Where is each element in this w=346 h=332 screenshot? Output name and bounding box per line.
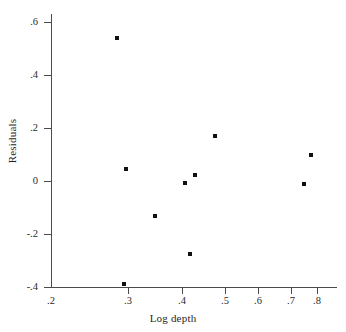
x-axis-title: Log depth (0, 312, 346, 324)
x-tick-label: .5 (213, 295, 237, 306)
x-tick-label: .7 (279, 295, 303, 306)
y-tick-mark (44, 234, 51, 235)
y-tick-mark (44, 181, 51, 182)
data-point (309, 153, 313, 157)
y-tick-mark (44, 22, 51, 23)
data-point (213, 134, 217, 138)
data-point (183, 181, 187, 185)
x-tick-mark (258, 288, 259, 294)
data-point (193, 173, 197, 177)
y-tick-mark (44, 128, 51, 129)
x-tick-label: .8 (305, 295, 329, 306)
x-tick-label: .6 (246, 295, 270, 306)
scatter-plot-figure: .6.4.20-.2-.4 .2.3.4.5.6.7.8 Residuals L… (0, 0, 346, 332)
data-point (188, 252, 192, 256)
data-point (115, 36, 119, 40)
y-tick-mark (44, 75, 51, 76)
y-tick-mark (44, 287, 51, 288)
y-axis-title: Residuals (6, 91, 18, 191)
data-point (122, 282, 126, 286)
y-tick-label: .4 (12, 70, 38, 80)
x-tick-mark (291, 288, 292, 294)
x-tick-mark (128, 288, 129, 294)
y-axis-line (51, 14, 52, 288)
data-point (302, 182, 306, 186)
data-point (124, 167, 128, 171)
y-tick-label: -.4 (12, 282, 38, 292)
x-tick-label: .3 (116, 295, 140, 306)
x-tick-label: .4 (170, 295, 194, 306)
x-tick-label: .2 (39, 295, 63, 306)
x-tick-mark (225, 288, 226, 294)
x-axis-line (51, 287, 337, 288)
x-tick-mark (182, 288, 183, 294)
y-tick-label: .6 (12, 17, 38, 27)
x-tick-mark (317, 288, 318, 294)
data-point (153, 214, 157, 218)
y-tick-label: -.2 (12, 229, 38, 239)
